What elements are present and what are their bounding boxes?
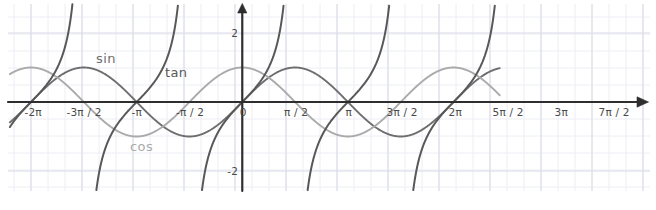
y-tick-label-1: -2 bbox=[227, 166, 238, 177]
x-tick-label-0: -2π bbox=[25, 107, 42, 118]
x-tick-label-5: π / 2 bbox=[284, 107, 308, 118]
curve-label-sin: sin bbox=[96, 52, 116, 65]
x-tick-label-3: -π / 2 bbox=[176, 107, 204, 118]
y-axis-arrow bbox=[238, 4, 247, 14]
curve-label-cos: cos bbox=[130, 140, 153, 153]
x-tick-label-10: 3π bbox=[555, 107, 568, 118]
grid-minor bbox=[8, 4, 650, 191]
x-tick-label-8: 2π bbox=[449, 107, 462, 118]
curve-label-tan: tan bbox=[165, 66, 188, 79]
y-tick-label-0: 2 bbox=[231, 28, 238, 39]
x-tick-label-4: 0 bbox=[240, 107, 247, 118]
x-tick-label-1: -3π / 2 bbox=[67, 107, 102, 118]
grid-major bbox=[8, 4, 650, 191]
x-tick-label-6: π bbox=[346, 107, 353, 118]
x-tick-label-7: 3π / 2 bbox=[387, 107, 418, 118]
x-tick-label-9: 5π / 2 bbox=[493, 107, 524, 118]
trig-function-chart: -2π-3π / 2-π-π / 20π / 2π3π / 22π5π / 23… bbox=[0, 0, 656, 210]
x-tick-label-11: 7π / 2 bbox=[599, 107, 630, 118]
x-tick-label-2: -π bbox=[132, 107, 143, 118]
chart-canvas bbox=[0, 0, 656, 210]
